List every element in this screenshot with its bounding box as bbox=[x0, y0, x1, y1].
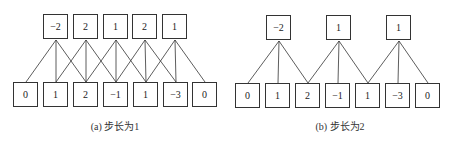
panel-stride-2: −2 1 1 0 1 2 −1 1 −3 0 (b) 步长为2 bbox=[0, 0, 452, 141]
input-cell: −1 bbox=[325, 83, 350, 108]
output-cell: −2 bbox=[266, 15, 291, 40]
input-cell: 0 bbox=[235, 83, 260, 108]
input-cell: 1 bbox=[265, 83, 290, 108]
output-cell: 1 bbox=[386, 15, 411, 40]
input-cell: 0 bbox=[415, 83, 440, 108]
input-cell: 2 bbox=[295, 83, 320, 108]
output-cell: 1 bbox=[326, 15, 351, 40]
connection-lines bbox=[0, 0, 452, 141]
input-cell: −3 bbox=[385, 83, 410, 108]
input-cell: 1 bbox=[355, 83, 380, 108]
caption-b: (b) 步长为2 bbox=[315, 118, 364, 133]
